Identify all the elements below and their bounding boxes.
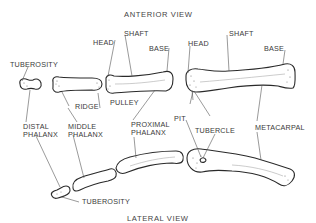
label-proximal-phalanx: PROXIMAL PHALANX [131, 121, 170, 137]
label-tuberosity-anterior: TUBEROSITY [10, 61, 58, 69]
label-tubercle: TUBERCLE [195, 127, 235, 135]
lateral-proximal-phalanx [116, 151, 183, 173]
hand-bones-diagram: ANTERIOR VIEW TUBEROSITY HEAD SHAFT BASE… [0, 0, 316, 223]
lateral-middle-phalanx [73, 169, 116, 191]
label-base-phalanx: BASE [149, 45, 169, 53]
leader-lines [22, 35, 285, 202]
label-head-phalanx: HEAD [93, 39, 114, 47]
label-base-metacarpal: BASE [264, 45, 284, 53]
label-head-metacarpal: HEAD [188, 40, 209, 48]
label-tuberosity-lateral: TUBEROSITY [82, 198, 130, 206]
anterior-metacarpal [186, 64, 295, 92]
label-shaft-metacarpal: SHAFT [229, 30, 254, 38]
tubercle-knob [200, 158, 206, 163]
lateral-view-title: LATERAL VIEW [127, 215, 189, 223]
anterior-view-title: ANTERIOR VIEW [124, 11, 193, 19]
label-pulley: PULLEY [110, 99, 139, 107]
label-ridge: RIDGE [75, 103, 99, 111]
lateral-metacarpal [187, 149, 294, 186]
anterior-proximal-phalanx [106, 71, 173, 93]
label-shaft-phalanx: SHAFT [124, 30, 149, 38]
label-distal-phalanx: DISTAL PHALANX [23, 123, 58, 139]
anterior-distal-phalanx [20, 79, 41, 90]
diagram-drawing [0, 0, 316, 223]
anterior-middle-phalanx [53, 77, 102, 92]
label-middle-phalanx: MIDDLE PHALANX [68, 123, 103, 139]
label-metacarpal: METACARPAL [255, 124, 305, 132]
label-pit: PIT [174, 115, 186, 123]
